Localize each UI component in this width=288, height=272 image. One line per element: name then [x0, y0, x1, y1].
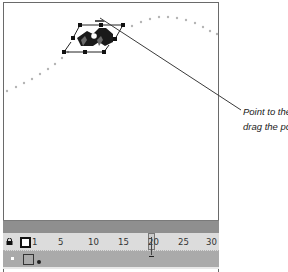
timeline-header-bar [3, 220, 219, 233]
keyframe-icon[interactable] [37, 260, 41, 264]
callout-annotation: Point to the drag the poi [243, 104, 288, 134]
playhead-line [151, 237, 152, 255]
outline-icon[interactable] [20, 237, 31, 248]
selected-tween-object[interactable] [59, 16, 129, 58]
frame-label-5: 5 [58, 236, 63, 247]
frame-ruler[interactable]: 1 5 10 15 20 25 30 [3, 233, 219, 251]
timeline-panel: 1 5 10 15 20 25 30 [3, 220, 219, 272]
frame-label-20: 20 [148, 236, 159, 247]
frame-label-30: 30 [206, 236, 217, 247]
frame-label-15: 15 [118, 236, 129, 247]
frame-label-10: 10 [88, 236, 99, 247]
property-keyframe-icon[interactable] [149, 256, 154, 257]
callout-line-1: Point to the [243, 104, 288, 119]
frame-label-25: 25 [178, 236, 189, 247]
layer-outline-icon[interactable] [23, 254, 34, 265]
visibility-dot-icon[interactable] [11, 257, 14, 260]
lock-icon[interactable] [6, 238, 13, 245]
callout-line-2: drag the poi [243, 119, 288, 134]
layer-row[interactable] [3, 251, 219, 269]
frame-label-1: 1 [32, 236, 37, 247]
